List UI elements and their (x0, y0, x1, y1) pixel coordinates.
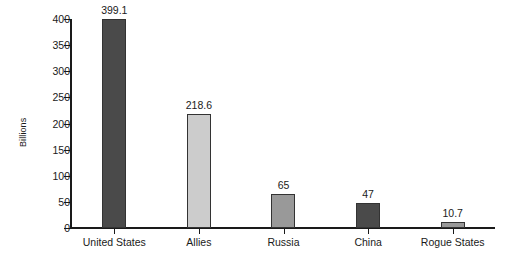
bar-group: 65 (241, 19, 326, 228)
y-tick-label: 50 (24, 196, 70, 208)
bar-chart: Billions 050100150200250300350400 399.12… (0, 0, 512, 261)
bar-group: 47 (326, 19, 411, 228)
bar (102, 19, 126, 228)
x-axis-category-label: United States (83, 236, 146, 248)
x-tick-mark (453, 229, 454, 234)
x-axis-category-label: Allies (186, 236, 211, 248)
bar (441, 222, 465, 228)
y-tick-label: 100 (24, 170, 70, 182)
bar-group: 218.6 (157, 19, 242, 228)
y-tick-label: 0 (24, 222, 70, 234)
bar-group: 399.1 (72, 19, 157, 228)
x-axis-category-label: Russia (267, 236, 299, 248)
y-tick-label: 400 (24, 13, 70, 25)
bar-group: 10.7 (410, 19, 495, 228)
bar (187, 114, 211, 228)
x-tick-mark (368, 229, 369, 234)
y-tick-label: 300 (24, 65, 70, 77)
plot-area: 399.1218.6654710.7 (72, 19, 495, 228)
x-tick-mark (114, 229, 115, 234)
y-tick-label: 350 (24, 39, 70, 51)
bar-value-label: 399.1 (101, 4, 127, 16)
bar-value-label: 65 (278, 179, 290, 191)
y-tick-label: 250 (24, 91, 70, 103)
bar-value-label: 47 (362, 188, 374, 200)
y-tick-label: 150 (24, 144, 70, 156)
x-tick-mark (199, 229, 200, 234)
x-axis-category-label: China (354, 236, 381, 248)
x-tick-mark (284, 229, 285, 234)
y-tick-label: 200 (24, 118, 70, 130)
bar (356, 203, 380, 228)
bar-value-label: 218.6 (186, 99, 212, 111)
bar-value-label: 10.7 (442, 207, 462, 219)
x-axis-category-label: Rogue States (421, 236, 485, 248)
bar (271, 194, 295, 228)
